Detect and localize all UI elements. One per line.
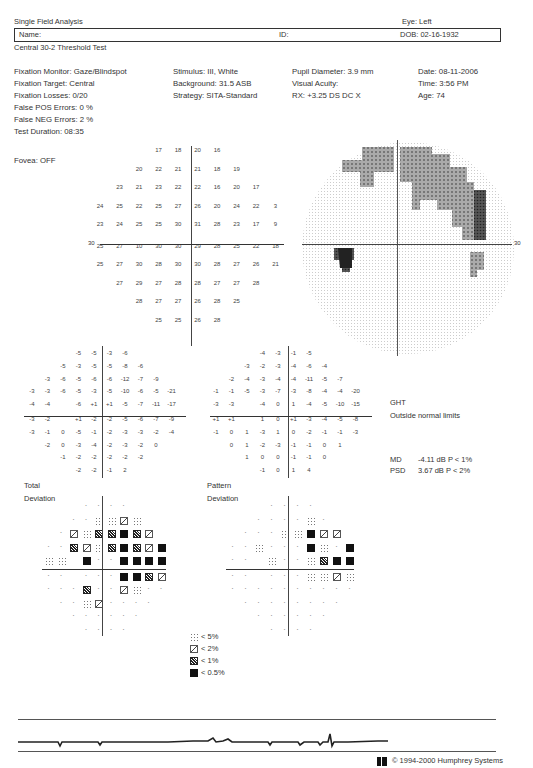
- grid-value: -5: [301, 349, 317, 357]
- normal-dot-icon: [320, 613, 328, 621]
- probability-symbol-icon: [320, 573, 328, 581]
- normal-dot-icon: [242, 600, 250, 608]
- grid-value: 1: [239, 441, 255, 449]
- probability-symbol-icon: [307, 544, 315, 552]
- threshold-axis-label: 30: [88, 238, 95, 248]
- normal-dot-icon: [255, 600, 263, 608]
- normal-dot-icon: [268, 573, 276, 581]
- false-neg-errors: False NEG Errors: 2 %: [14, 114, 127, 126]
- grid-value: -1: [86, 428, 102, 436]
- normal-dot-icon: [320, 517, 328, 525]
- pd-plot-vertical-axis: [288, 496, 289, 636]
- grid-value: -5: [71, 349, 87, 357]
- grid-value: 20: [209, 202, 225, 210]
- normal-dot-icon: [307, 503, 315, 511]
- pupil-info: Pupil Diameter: 3.9 mm Visual Acuity: RX…: [292, 66, 373, 102]
- grid-value: 0: [224, 428, 240, 436]
- probability-symbol-icon: [145, 544, 153, 552]
- normal-dot-icon: [145, 586, 153, 594]
- grid-value: -5: [117, 400, 133, 408]
- grid-value: 25: [229, 297, 245, 305]
- probability-symbol-icon: [83, 557, 91, 565]
- legend-symbol-icon: [190, 633, 198, 641]
- probability-symbol-icon: [133, 517, 141, 525]
- probability-symbol-icon: [70, 530, 78, 538]
- fixation-target: Fixation Target: Central: [14, 78, 127, 90]
- grid-value: 22: [151, 165, 167, 173]
- grid-value: -4: [317, 387, 333, 395]
- grid-value: -6: [133, 362, 149, 370]
- grid-value: -3: [270, 441, 286, 449]
- normal-dot-icon: [229, 573, 237, 581]
- normal-dot-icon: [58, 600, 66, 608]
- probability-symbol-icon: [346, 557, 354, 565]
- grid-value: 30: [170, 242, 186, 250]
- gaze-tracker-trace: [18, 730, 388, 750]
- normal-dot-icon: [108, 600, 116, 608]
- grid-value: -15: [348, 400, 364, 408]
- grid-value: 30: [131, 260, 147, 268]
- grid-value: -4: [270, 375, 286, 383]
- grid-value: 20: [131, 165, 147, 173]
- pd-values-horizontal-axis: [210, 416, 372, 417]
- legend-label: < 2%: [201, 644, 218, 654]
- grid-value: 0: [55, 428, 71, 436]
- normal-dot-icon: [108, 627, 116, 635]
- normal-dot-icon: [307, 613, 315, 621]
- normal-dot-icon: [242, 557, 250, 565]
- normal-dot-icon: [58, 573, 66, 581]
- probability-symbol-icon: [346, 544, 354, 552]
- grid-value: 1: [332, 441, 348, 449]
- grid-value: -1: [40, 428, 56, 436]
- probability-symbol-icon: [268, 557, 276, 565]
- grid-value: 18: [209, 165, 225, 173]
- grid-value: -3: [348, 428, 364, 436]
- probability-symbol-icon: [307, 530, 315, 538]
- normal-dot-icon: [294, 600, 302, 608]
- grid-value: -7: [270, 387, 286, 395]
- normal-dot-icon: [320, 586, 328, 594]
- probability-symbol-icon: [70, 544, 78, 552]
- grid-value: -3: [208, 400, 224, 408]
- grid-value: -4: [86, 441, 102, 449]
- grid-value: 0: [270, 453, 286, 461]
- background: Background: 31.5 ASB: [173, 78, 257, 90]
- legend-label: < 1%: [201, 656, 218, 666]
- report-title: Single Field Analysis: [14, 17, 83, 27]
- grid-value: -10: [332, 400, 348, 408]
- grid-value: -11: [148, 400, 164, 408]
- probability-symbol-icon: [120, 530, 128, 538]
- grid-value: 22: [131, 202, 147, 210]
- grid-value: 28: [131, 297, 147, 305]
- normal-dot-icon: [320, 600, 328, 608]
- normal-dot-icon: [45, 544, 53, 552]
- normal-dot-icon: [45, 586, 53, 594]
- strategy: Strategy: SITA-Standard: [173, 90, 257, 102]
- test-time: Time: 3:56 PM: [418, 78, 478, 90]
- gaze-tracker-bottom-border: [18, 751, 496, 752]
- grid-value: -2: [86, 466, 102, 474]
- normal-dot-icon: [83, 573, 91, 581]
- grid-value: -5: [71, 375, 87, 383]
- normal-dot-icon: [229, 544, 237, 552]
- normal-dot-icon: [45, 573, 53, 581]
- normal-dot-icon: [268, 530, 276, 538]
- normal-dot-icon: [145, 600, 153, 608]
- grid-value: 0: [224, 441, 240, 449]
- td-label-2: Deviation: [24, 494, 55, 504]
- normal-dot-icon: [255, 517, 263, 525]
- probability-symbol-icon: [333, 530, 341, 538]
- normal-dot-icon: [333, 544, 341, 552]
- normal-dot-icon: [268, 586, 276, 594]
- date-info: Date: 08-11-2006 Time: 3:56 PM Age: 74: [418, 66, 478, 102]
- probability-symbol-icon: [133, 573, 141, 581]
- grid-value: -7: [332, 375, 348, 383]
- grid-value: -2: [102, 441, 118, 449]
- grid-value: -9: [148, 375, 164, 383]
- grid-value: 0: [55, 441, 71, 449]
- normal-dot-icon: [108, 503, 116, 511]
- probability-symbol-icon: [120, 517, 128, 525]
- normal-dot-icon: [268, 600, 276, 608]
- grid-value: -2: [301, 428, 317, 436]
- grid-value: 27: [112, 242, 128, 250]
